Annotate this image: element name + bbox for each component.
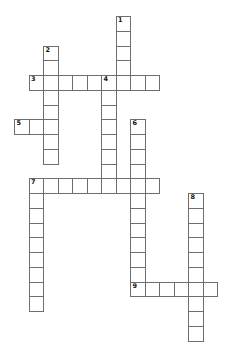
crossword-cell[interactable] xyxy=(188,208,204,224)
crossword-cell[interactable] xyxy=(130,267,146,283)
crossword-cell[interactable] xyxy=(87,178,103,194)
crossword-cell[interactable]: 3 xyxy=(29,75,45,91)
crossword-cell[interactable] xyxy=(116,60,132,76)
crossword-cell[interactable] xyxy=(145,178,161,194)
crossword-cell[interactable] xyxy=(58,178,74,194)
crossword-cell[interactable] xyxy=(101,134,117,150)
crossword-cell[interactable] xyxy=(130,237,146,253)
crossword-cell[interactable] xyxy=(130,149,146,165)
crossword-cell[interactable] xyxy=(29,296,45,312)
crossword-cell[interactable] xyxy=(188,252,204,268)
crossword-cell[interactable]: 5 xyxy=(14,119,30,135)
crossword-cell[interactable] xyxy=(101,90,117,106)
crossword-cell[interactable] xyxy=(87,75,103,91)
crossword-cell[interactable] xyxy=(29,119,45,135)
crossword-cell[interactable] xyxy=(130,193,146,209)
crossword-cell[interactable] xyxy=(130,252,146,268)
crossword-puzzle: 123456978 xyxy=(0,0,230,362)
clue-number: 8 xyxy=(191,194,196,201)
crossword-cell[interactable] xyxy=(43,75,59,91)
crossword-cell[interactable] xyxy=(203,282,219,298)
crossword-cell[interactable]: 9 xyxy=(130,282,146,298)
crossword-cell[interactable]: 8 xyxy=(188,193,204,209)
crossword-cell[interactable] xyxy=(43,178,59,194)
crossword-cell[interactable]: 1 xyxy=(116,16,132,32)
clue-number: 1 xyxy=(118,17,123,24)
crossword-cell[interactable] xyxy=(43,134,59,150)
crossword-cell[interactable] xyxy=(72,75,88,91)
crossword-cell[interactable] xyxy=(29,252,45,268)
crossword-cell[interactable] xyxy=(43,60,59,76)
crossword-cell[interactable] xyxy=(188,237,204,253)
crossword-cell[interactable]: 2 xyxy=(43,46,59,62)
crossword-cell[interactable] xyxy=(101,164,117,180)
crossword-cell[interactable] xyxy=(188,282,204,298)
crossword-cell[interactable] xyxy=(29,193,45,209)
clue-number: 9 xyxy=(133,283,138,290)
clue-number: 6 xyxy=(133,120,138,127)
crossword-cell[interactable] xyxy=(29,223,45,239)
crossword-cell[interactable] xyxy=(101,178,117,194)
crossword-cell[interactable] xyxy=(116,75,132,91)
crossword-cell[interactable] xyxy=(29,237,45,253)
crossword-cell[interactable] xyxy=(116,31,132,47)
page: { "page": { "background": "#ffffff", "wi… xyxy=(0,0,230,362)
clue-number: 3 xyxy=(31,76,36,83)
clue-number: 7 xyxy=(31,179,36,186)
crossword-cell[interactable] xyxy=(43,105,59,121)
crossword-cell[interactable] xyxy=(116,46,132,62)
crossword-cell[interactable] xyxy=(174,282,190,298)
crossword-cell[interactable] xyxy=(116,178,132,194)
crossword-cell[interactable] xyxy=(101,149,117,165)
crossword-cell[interactable]: 6 xyxy=(130,119,146,135)
crossword-cell[interactable] xyxy=(188,267,204,283)
crossword-cell[interactable] xyxy=(29,282,45,298)
crossword-cell[interactable] xyxy=(159,282,175,298)
crossword-cell[interactable] xyxy=(130,178,146,194)
clue-number: 4 xyxy=(104,76,109,83)
crossword-cell[interactable] xyxy=(188,223,204,239)
crossword-cell[interactable] xyxy=(29,208,45,224)
crossword-cell[interactable] xyxy=(72,178,88,194)
crossword-cell[interactable] xyxy=(101,105,117,121)
crossword-cell[interactable] xyxy=(43,90,59,106)
crossword-cell[interactable] xyxy=(29,267,45,283)
crossword-cell[interactable] xyxy=(145,282,161,298)
crossword-cell[interactable] xyxy=(43,119,59,135)
crossword-cell[interactable] xyxy=(145,75,161,91)
crossword-cell[interactable] xyxy=(130,223,146,239)
crossword-cell[interactable]: 7 xyxy=(29,178,45,194)
crossword-cell[interactable] xyxy=(101,119,117,135)
crossword-cell[interactable] xyxy=(43,149,59,165)
crossword-cell[interactable] xyxy=(130,134,146,150)
crossword-cell[interactable]: 4 xyxy=(101,75,117,91)
crossword-cell[interactable] xyxy=(188,326,204,342)
clue-number: 5 xyxy=(17,120,22,127)
crossword-cell[interactable] xyxy=(188,311,204,327)
crossword-grid: 123456978 xyxy=(0,0,230,362)
crossword-cell[interactable] xyxy=(130,164,146,180)
crossword-cell[interactable] xyxy=(188,296,204,312)
crossword-cell[interactable] xyxy=(130,75,146,91)
crossword-cell[interactable] xyxy=(130,208,146,224)
clue-number: 2 xyxy=(46,47,51,54)
crossword-cell[interactable] xyxy=(58,75,74,91)
